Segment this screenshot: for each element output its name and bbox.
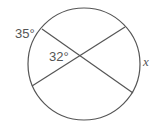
angle-label-32: 32° [49,49,69,64]
arc-label-35: 35° [15,26,35,41]
arc-label-x: x [142,54,149,69]
circle [28,8,140,120]
circle-diagram: 35° 32° x [0,0,159,128]
